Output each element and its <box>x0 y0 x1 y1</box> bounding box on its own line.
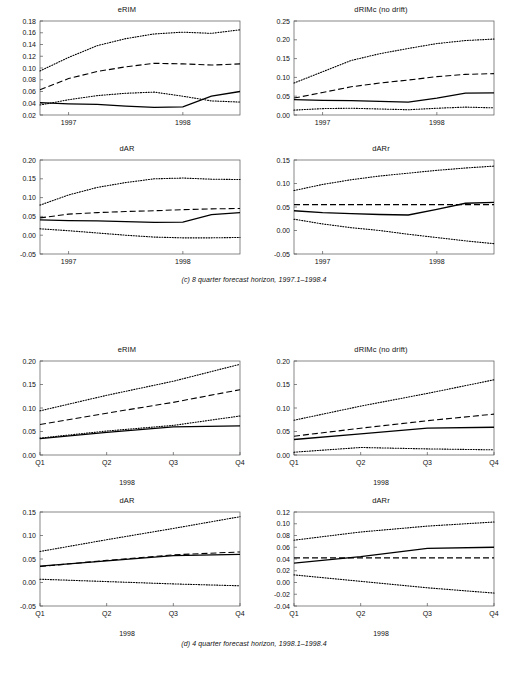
chart-cell-d-darr: dARr -0.04-0.020.000.020.040.060.080.100… <box>254 495 508 640</box>
x-axis-tick-label: Q4 <box>489 610 498 618</box>
y-axis-tick-label: 0.00 <box>276 227 290 234</box>
y-axis-tick-label: -0.04 <box>274 603 290 610</box>
chart-cell-d-dar: dAR -0.050.000.050.100.15Q1Q2Q3Q4 1998 <box>0 495 254 640</box>
y-axis-tick-label: 0.00 <box>276 579 290 586</box>
series-line <box>40 426 240 439</box>
y-axis-tick-label: 0.15 <box>22 381 36 388</box>
y-axis-tick-label: 0.10 <box>276 520 290 527</box>
x-axis-tick-label: Q3 <box>423 610 432 618</box>
chart-title: dRIMc (no drift) <box>254 4 508 15</box>
panel-c: eRIM 0.020.040.060.080.100.120.140.160.1… <box>0 4 508 283</box>
series-line <box>294 575 494 593</box>
panel-d-row-1: eRIM 0.000.050.100.150.20Q1Q2Q3Q4 1998 d… <box>0 344 508 489</box>
series-line <box>294 107 494 110</box>
series-line <box>294 427 494 439</box>
series-line <box>40 209 240 218</box>
y-axis-tick-label: 0.00 <box>22 579 36 586</box>
series-line <box>40 554 240 566</box>
series-line <box>294 380 494 420</box>
x-axis-tick-label: Q2 <box>102 610 111 618</box>
y-axis-tick-label: 0.05 <box>276 204 290 211</box>
x-axis-tick-label: Q4 <box>489 459 498 467</box>
x-axis-tick-label: Q3 <box>169 610 178 618</box>
series-line <box>294 447 494 452</box>
chart-title: dRIMc (no drift) <box>254 344 508 355</box>
x-axis-tick-label: Q2 <box>102 459 111 467</box>
y-axis-tick-label: 0.10 <box>22 405 36 412</box>
x-axis-tick-label: Q1 <box>35 459 44 467</box>
y-axis-tick-label: 0.04 <box>22 100 36 107</box>
y-axis-tick-label: 0.15 <box>22 509 36 516</box>
chart-svg: -0.050.000.050.100.150.2019971998 <box>0 154 254 276</box>
y-axis-tick-label: 0.15 <box>276 55 290 62</box>
y-axis-tick-label: 0.16 <box>22 29 36 36</box>
chart-title: eRIM <box>0 344 254 355</box>
series-line <box>294 93 494 102</box>
y-axis-tick-label: 0.05 <box>22 428 36 435</box>
plot-area: -0.050.000.050.100.15Q1Q2Q3Q4 <box>0 506 254 628</box>
plot-frame <box>294 512 494 606</box>
series-line <box>294 547 494 563</box>
chart-svg: -0.04-0.020.000.020.040.060.080.100.12Q1… <box>254 506 508 628</box>
series-line <box>294 522 494 540</box>
plot-frame <box>294 361 494 455</box>
x-axis-tick-label: 1997 <box>61 258 77 265</box>
x-axis-tick-label: 1998 <box>175 119 191 126</box>
chart-svg: 0.000.050.100.150.200.2519971998 <box>254 15 508 137</box>
y-axis-tick-label: 0.10 <box>276 74 290 81</box>
x-axis-tick-label: 1998 <box>175 258 191 265</box>
chart-svg: -0.050.000.050.100.1519971998 <box>254 154 508 276</box>
chart-cell-d-drimc: dRIMc (no drift) 0.000.050.100.150.20Q1Q… <box>254 344 508 489</box>
chart-title: eRIM <box>0 4 254 15</box>
series-line <box>294 166 494 190</box>
chart-title: dAR <box>0 495 254 506</box>
y-axis-tick-label: 0.02 <box>22 112 36 119</box>
series-line <box>294 74 494 98</box>
x-axis-label: 1998 <box>0 628 254 640</box>
series-line <box>40 579 240 586</box>
plot-area: -0.050.000.050.100.150.2019971998 <box>0 154 254 276</box>
panel-c-row-1: eRIM 0.020.040.060.080.100.120.140.160.1… <box>0 4 508 137</box>
series-line <box>40 92 240 105</box>
y-axis-tick-label: 0.04 <box>276 556 290 563</box>
series-line <box>294 39 494 83</box>
y-axis-tick-label: 0.10 <box>276 405 290 412</box>
y-axis-tick-label: 0.12 <box>22 53 36 60</box>
y-axis-tick-label: 0.06 <box>276 544 290 551</box>
y-axis-tick-label: 0.00 <box>22 452 36 459</box>
x-axis-tick-label: 1998 <box>429 258 445 265</box>
y-axis-tick-label: -0.02 <box>274 591 290 598</box>
chart-cell-c-darr: dARr -0.050.000.050.100.1519971998 <box>254 143 508 276</box>
series-line <box>40 178 240 205</box>
y-axis-tick-label: 0.18 <box>22 18 36 25</box>
panel-d-caption: (d) 4 quarter forecast horizon, 1998.1–1… <box>0 640 508 647</box>
plot-area: 0.020.040.060.080.100.120.140.160.181997… <box>0 15 254 137</box>
plot-area: -0.050.000.050.100.1519971998 <box>254 154 508 276</box>
panel-d-row-2: dAR -0.050.000.050.100.15Q1Q2Q3Q4 1998 d… <box>0 495 508 640</box>
plot-area: 0.000.050.100.150.20Q1Q2Q3Q4 <box>0 355 254 477</box>
y-axis-tick-label: 0.00 <box>22 232 36 239</box>
chart-title: dARr <box>254 495 508 506</box>
series-line <box>40 517 240 552</box>
panel-c-row-2: dAR -0.050.000.050.100.150.2019971998 dA… <box>0 143 508 276</box>
x-axis-tick-label: Q4 <box>235 610 244 618</box>
y-axis-tick-label: 0.20 <box>276 36 290 43</box>
x-axis-label: 1998 <box>254 628 508 640</box>
x-axis-tick-label: Q2 <box>356 610 365 618</box>
y-axis-tick-label: -0.05 <box>20 603 36 610</box>
chart-svg: 0.000.050.100.150.20Q1Q2Q3Q4 <box>0 355 254 477</box>
y-axis-tick-label: 0.15 <box>276 381 290 388</box>
panel-d: eRIM 0.000.050.100.150.20Q1Q2Q3Q4 1998 d… <box>0 344 508 647</box>
y-axis-tick-label: 0.05 <box>276 93 290 100</box>
y-axis-tick-label: 0.25 <box>276 18 290 25</box>
panel-c-caption: (c) 8 quarter forecast horizon, 1997.1–1… <box>0 276 508 283</box>
x-axis-tick-label: 1997 <box>61 119 77 126</box>
chart-cell-c-erim: eRIM 0.020.040.060.080.100.120.140.160.1… <box>0 4 254 137</box>
y-axis-tick-label: 0.10 <box>22 65 36 72</box>
plot-frame <box>40 512 240 606</box>
series-line <box>40 92 240 108</box>
plot-area: 0.000.050.100.150.20Q1Q2Q3Q4 <box>254 355 508 477</box>
y-axis-tick-label: -0.05 <box>274 251 290 258</box>
y-axis-tick-label: 0.00 <box>276 112 290 119</box>
x-axis-tick-label: Q1 <box>35 610 44 618</box>
